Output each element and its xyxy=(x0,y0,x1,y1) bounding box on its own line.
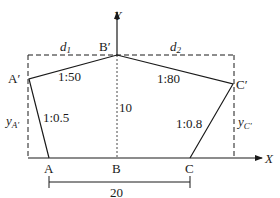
x-axis-label: X xyxy=(264,151,274,166)
point-label-b-prime: B′ xyxy=(99,39,111,54)
y-a-prime-label: yA′ xyxy=(4,113,20,130)
point-label-c: C xyxy=(185,161,194,176)
height-label-10: 10 xyxy=(119,100,132,115)
slope-label-right-top: 1:80 xyxy=(157,71,180,86)
point-label-a-prime: A′ xyxy=(8,71,20,86)
y-c-prime-label: yC′ xyxy=(236,114,253,131)
d2-label: d2 xyxy=(170,39,182,55)
slope-label-right-side: 1:0.8 xyxy=(176,116,202,131)
cross-section-diagram: Y X B′ A′ C′ A B C 1:50 1:80 1:0.5 1:0.8… xyxy=(0,0,280,198)
slope-label-left-top: 1:50 xyxy=(58,69,81,84)
base-width-label-20: 20 xyxy=(110,185,123,198)
point-label-b: B xyxy=(112,161,121,176)
slope-label-left-side: 1:0.5 xyxy=(43,110,69,125)
d1-label: d1 xyxy=(60,39,71,55)
point-label-a: A xyxy=(44,161,54,176)
y-axis-label: Y xyxy=(114,8,123,23)
point-label-c-prime: C′ xyxy=(236,77,248,92)
